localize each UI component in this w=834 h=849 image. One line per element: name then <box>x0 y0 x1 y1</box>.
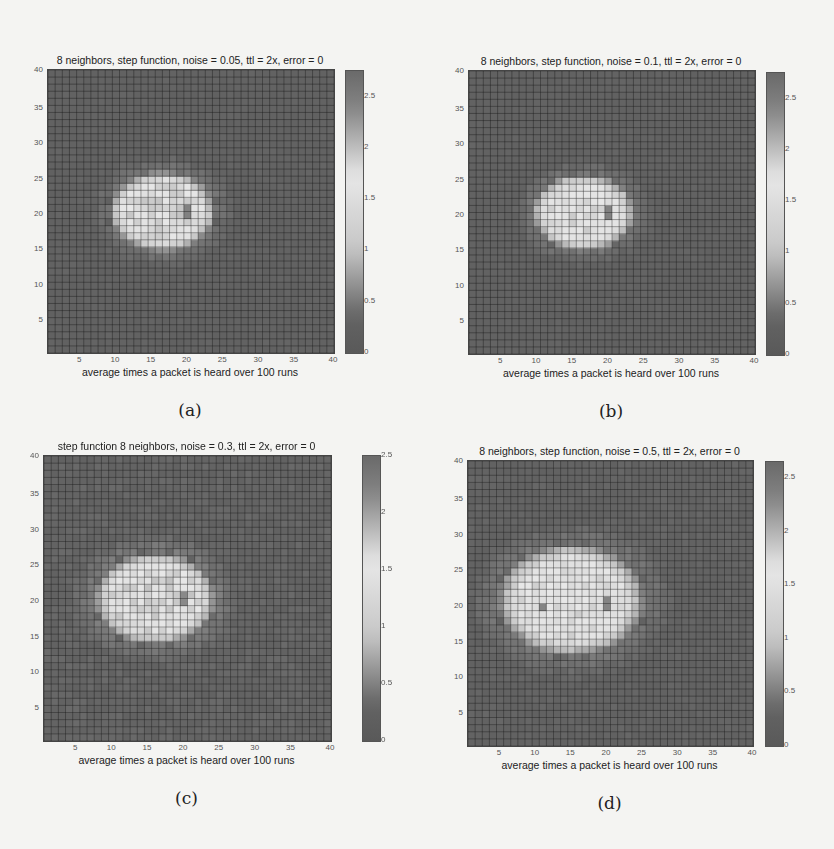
chart-title: step function 8 neighbors, noise = 0.3, … <box>23 440 350 452</box>
y-tick-label: 10 <box>444 281 464 290</box>
x-tick-label: 30 <box>669 356 689 365</box>
colorbar-tick-label: 1.5 <box>784 579 795 588</box>
y-tick-label: 25 <box>443 565 463 574</box>
colorbar-tick-label: 1 <box>381 621 385 630</box>
x-tick-label: 40 <box>744 356 764 365</box>
y-tick-label: 35 <box>443 494 463 503</box>
colorbar-tick-label: 0.5 <box>784 686 795 695</box>
colorbar-tick-label: 0 <box>784 740 788 749</box>
y-tick-label: 5 <box>444 316 464 325</box>
x-tick-label: 25 <box>633 356 653 365</box>
x-tick-label: 40 <box>742 748 762 757</box>
y-tick-label: 10 <box>443 672 463 681</box>
x-tick-label: 35 <box>703 748 723 757</box>
y-tick-label: 40 <box>19 451 39 460</box>
y-tick-label: 15 <box>19 632 39 641</box>
x-tick-label: 15 <box>562 356 582 365</box>
x-tick-label: 20 <box>597 356 617 365</box>
colorbar-tick-label: 1 <box>785 246 789 255</box>
x-tick-label: 30 <box>245 743 265 752</box>
colorbar-tick-label: 2.5 <box>785 93 796 102</box>
x-tick-label: 25 <box>632 748 652 757</box>
colorbar-tick-label: 1.5 <box>381 564 392 573</box>
y-tick-label: 40 <box>443 456 463 465</box>
x-axis-label: average times a packet is heard over 100… <box>458 367 764 379</box>
heatmap-canvas <box>44 456 331 741</box>
x-tick-label: 15 <box>560 748 580 757</box>
colorbar-tick-label: 2.5 <box>784 472 795 481</box>
y-tick-label: 5 <box>443 708 463 717</box>
y-tick-label: 15 <box>444 245 464 254</box>
x-axis-label: average times a packet is heard over 100… <box>457 759 762 771</box>
y-tick-label: 30 <box>444 139 464 148</box>
x-tick-label: 25 <box>209 743 229 752</box>
panel-caption: (d) <box>560 793 660 813</box>
y-tick-label: 35 <box>444 104 464 113</box>
colorbar <box>766 72 785 356</box>
y-tick-label: 30 <box>19 525 39 534</box>
x-tick-label: 10 <box>526 356 546 365</box>
colorbar-tick-label: 2.5 <box>381 450 392 459</box>
y-tick-label: 10 <box>19 667 39 676</box>
colorbar-tick-label: 2 <box>784 526 788 535</box>
y-tick-label: 40 <box>444 66 464 75</box>
colorbar <box>362 455 381 742</box>
heatmap-plot <box>468 70 756 355</box>
y-tick-label: 25 <box>19 560 39 569</box>
x-axis-label: average times a packet is heard over 100… <box>33 754 340 766</box>
y-tick-label: 5 <box>19 703 39 712</box>
y-tick-label: 25 <box>444 175 464 184</box>
x-tick-label: 20 <box>596 748 616 757</box>
colorbar <box>765 461 784 747</box>
y-tick-label: 30 <box>443 530 463 539</box>
chart-title: 8 neighbors, step function, noise = 0.1,… <box>448 55 774 67</box>
heatmap-plot <box>43 455 332 742</box>
x-tick-label: 30 <box>667 748 687 757</box>
y-tick-label: 20 <box>443 601 463 610</box>
y-tick-label: 35 <box>19 489 39 498</box>
colorbar-tick-label: 1.5 <box>785 195 796 204</box>
colorbar-tick-label: 2 <box>381 507 385 516</box>
x-tick-label: 40 <box>320 743 340 752</box>
heatmap-canvas <box>468 461 753 746</box>
x-tick-label: 20 <box>173 743 193 752</box>
y-tick-label: 20 <box>19 596 39 605</box>
x-tick-label: 10 <box>525 748 545 757</box>
colorbar-tick-label: 0.5 <box>785 298 796 307</box>
colorbar-tick-label: 1 <box>784 633 788 642</box>
y-tick-label: 15 <box>443 637 463 646</box>
x-tick-label: 35 <box>705 356 725 365</box>
colorbar-tick-label: 0 <box>785 349 789 358</box>
heatmap-canvas <box>469 71 755 354</box>
chart-title: 8 neighbors, step function, noise = 0.5,… <box>447 445 772 457</box>
y-tick-label: 20 <box>444 210 464 219</box>
heatmap-plot <box>467 460 754 747</box>
colorbar-tick-label: 2 <box>785 144 789 153</box>
x-tick-label: 5 <box>490 356 510 365</box>
x-tick-label: 5 <box>489 748 509 757</box>
panel-caption: (b) <box>561 401 661 421</box>
colorbar-tick-label: 0.5 <box>381 678 392 687</box>
colorbar-tick-label: 0 <box>381 735 385 744</box>
panel-caption: (c) <box>137 788 237 808</box>
x-tick-label: 10 <box>101 743 121 752</box>
x-tick-label: 35 <box>281 743 301 752</box>
panel-d: 8 neighbors, step function, noise = 0.5,… <box>0 0 417 424</box>
x-tick-label: 15 <box>137 743 157 752</box>
x-tick-label: 5 <box>65 743 85 752</box>
